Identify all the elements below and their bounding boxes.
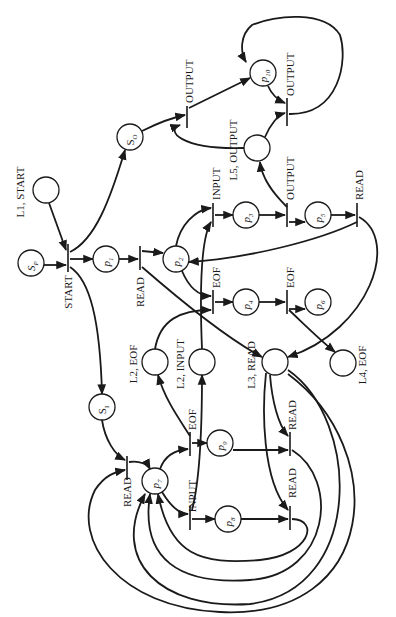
label-input-1: INPUT — [210, 167, 222, 200]
place-l2-eof — [142, 349, 168, 375]
label-l5-output: L5, OUTPUT — [227, 119, 239, 180]
label-l2-eof: L2, EOF — [127, 345, 139, 384]
label-l4-eof: L4, EOF — [356, 346, 368, 385]
label-read-2: READ — [353, 170, 365, 200]
place-p9 — [207, 430, 233, 456]
place-sp — [18, 250, 44, 276]
label-output-so: OUTPUT — [183, 59, 195, 103]
label-start: START — [62, 275, 74, 309]
label-l3-read: L3, READ — [245, 341, 257, 389]
label-read-p9: READ — [286, 400, 298, 430]
label-eof-2: EOF — [284, 267, 296, 288]
place-p4 — [233, 289, 259, 315]
place-l2-input — [189, 349, 215, 375]
label-read-si: READ — [121, 477, 133, 507]
place-p1 — [93, 246, 119, 272]
place-si — [89, 394, 115, 420]
label-l1-start: L1, START — [14, 166, 26, 217]
place-p5 — [305, 202, 331, 228]
place-p7 — [142, 468, 168, 494]
label-input-p7: INPUT — [186, 480, 198, 513]
place-p8 — [215, 506, 241, 532]
petri-net-diagram: SP SO SI p1 p2 p3 p4 p5 p6 p7 p8 p9 p10 … — [0, 0, 396, 617]
label-output-1: OUTPUT — [284, 156, 296, 200]
place-p2 — [163, 246, 189, 272]
label-read-p8: READ — [286, 468, 298, 498]
arcs — [44, 17, 377, 612]
place-p6 — [305, 289, 331, 315]
place-l4-eof — [330, 350, 356, 376]
place-l1-start — [33, 177, 59, 203]
place-l3-read — [262, 349, 288, 375]
place-labels: L1, START L5, OUTPUT L2, EOF L2, INPUT L… — [14, 119, 368, 389]
label-l2-input: L2, INPUT — [174, 339, 186, 389]
place-p3 — [233, 202, 259, 228]
label-read-1: READ — [134, 277, 146, 307]
place-l5-output — [244, 135, 270, 161]
label-eof-1: EOF — [210, 267, 222, 288]
label-eof-p7: EOF — [186, 409, 198, 430]
label-output-p10: OUTPUT — [284, 52, 296, 96]
